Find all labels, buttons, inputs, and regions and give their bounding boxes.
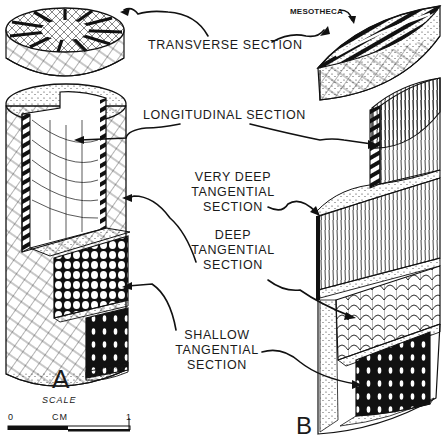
specimen-label-a: A — [52, 364, 69, 395]
scale-title: SCALE — [42, 395, 77, 405]
label-line: SHALLOW — [174, 328, 260, 343]
label-line: SECTION — [190, 258, 276, 273]
scale-unit: CM — [52, 412, 68, 422]
arrow-shallow-a — [128, 284, 176, 330]
specimen-b-column — [316, 78, 440, 434]
label-line: SECTION — [190, 200, 276, 215]
label-line: TANGENTIAL — [190, 185, 276, 200]
specimen-label-b: B — [296, 412, 312, 440]
label-longitudinal-section: LONGITUDINAL SECTION — [143, 108, 306, 123]
arrow-deep-a2 — [128, 196, 196, 262]
label-line: DEEP — [190, 228, 276, 243]
label-line: SECTION — [174, 358, 260, 373]
specimen-a-transverse-disc — [6, 8, 124, 76]
label-deep-tangential-section: DEEP TANGENTIAL SECTION — [190, 228, 276, 273]
label-shallow-tangential-section: SHALLOW TANGENTIAL SECTION — [174, 328, 260, 373]
specimen-a-column — [6, 84, 130, 386]
scale-end: 1 — [126, 412, 131, 422]
arrow-transverse-a — [124, 9, 208, 36]
label-transverse-section: TRANSVERSE SECTION — [148, 38, 303, 53]
scale-bar — [8, 418, 130, 432]
scale-start: 0 — [8, 412, 13, 422]
label-line: TANGENTIAL — [174, 343, 260, 358]
arrow-longitudinal-b — [250, 124, 372, 144]
label-very-deep-tangential-section: VERY DEEP TANGENTIAL SECTION — [190, 170, 276, 215]
label-mesotheca: MESOTHECA — [290, 4, 343, 19]
label-line: VERY DEEP — [190, 170, 276, 185]
label-line: TANGENTIAL — [190, 243, 276, 258]
